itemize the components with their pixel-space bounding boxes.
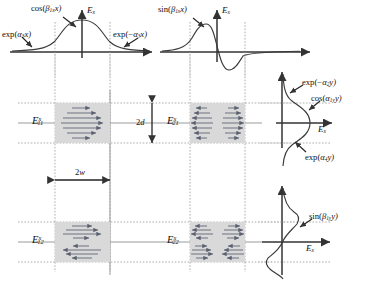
- mode-cell-21: [190, 103, 245, 143]
- label-sin-beta1x: sin(β1xx): [158, 5, 187, 15]
- sin-exp-curve: [162, 24, 300, 70]
- label-cos-alpha1y: cos(α1yy): [311, 94, 342, 104]
- mode-label-21: Ex21: [167, 116, 179, 127]
- dimension-label-2w: 2w: [75, 168, 85, 177]
- dimension-label-2d: 2d: [136, 118, 145, 127]
- mode-label-12: Ex12: [32, 235, 44, 246]
- top-left-profile-plot: [10, 10, 152, 78]
- axis-label-ex-right-upper: Ex: [318, 125, 326, 135]
- label-sin-beta1y: sin(β1yy): [309, 212, 338, 222]
- axis-label-ex-right-lower: Ex: [306, 244, 314, 254]
- axis-label-ex-top-left: Ex: [87, 6, 95, 16]
- label-exp-neg-alpha3-x: exp(−α3x): [113, 30, 147, 40]
- axis-label-ex-top-right: Ex: [222, 6, 230, 16]
- label-exp-alpha3-x-left: exp(α3x): [2, 30, 31, 40]
- mode-cell-11: [55, 103, 110, 143]
- label-cos-beta1x: cos(β1xx): [31, 4, 61, 14]
- label-exp-neg-alpha2-y: exp(−α2y): [302, 78, 336, 88]
- mode-label-22: Ex22: [167, 235, 179, 246]
- mode-cell-22: [190, 222, 245, 262]
- right-lower-profile-plot: [258, 186, 330, 279]
- label-exp-alpha4-y: exp(α4y): [305, 153, 334, 163]
- mode-label-11: Ex11: [32, 116, 43, 127]
- top-right-profile-plot: [160, 10, 310, 78]
- mode-cell-12: [55, 222, 110, 262]
